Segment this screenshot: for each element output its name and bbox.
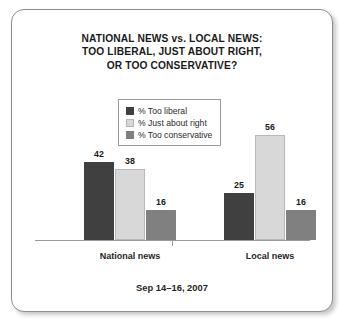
bar-local-news-too-liberal	[224, 193, 254, 240]
bar-national-news-just-about-right	[115, 169, 145, 240]
plot-area: 423816255616	[12, 10, 332, 311]
bar-value-local-news-too-conservative: 16	[286, 197, 316, 207]
chart-card: NATIONAL NEWS vs. LOCAL NEWS: TOO LIBERA…	[11, 9, 333, 312]
x-axis-label-local-news: Local news	[224, 251, 316, 261]
x-axis-center-tick	[172, 241, 173, 246]
bar-value-national-news-just-about-right: 38	[115, 156, 145, 166]
bar-value-local-news-just-about-right: 56	[255, 122, 285, 132]
bar-local-news-just-about-right	[255, 135, 285, 240]
bar-value-national-news-too-liberal: 42	[84, 149, 114, 159]
chart-footer-date: Sep 14–16, 2007	[12, 282, 332, 293]
bar-value-national-news-too-conservative: 16	[146, 197, 176, 207]
x-axis-label-national-news: National news	[84, 251, 176, 261]
bar-local-news-too-conservative	[286, 210, 316, 240]
bar-national-news-too-conservative	[146, 210, 176, 240]
bar-national-news-too-liberal	[84, 162, 114, 240]
bar-value-local-news-too-liberal: 25	[224, 180, 254, 190]
